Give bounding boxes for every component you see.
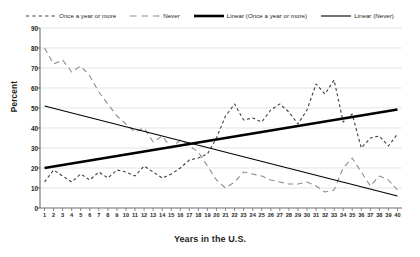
- x-tick-label: 36: [358, 212, 364, 218]
- x-tick-label: 27: [277, 212, 283, 218]
- x-tick-label: 7: [97, 212, 100, 218]
- x-tick-label: 10: [123, 212, 129, 218]
- x-tick-label: 3: [61, 212, 64, 218]
- chart-container: Once a year or more Never Linear (Once a…: [0, 0, 420, 257]
- x-tick-label: 35: [349, 212, 355, 218]
- x-tick-label: 18: [195, 212, 201, 218]
- x-tick-label: 30: [304, 212, 310, 218]
- x-tick-label: 33: [331, 212, 337, 218]
- x-tick-label: 23: [241, 212, 247, 218]
- x-tick-label: 32: [322, 212, 328, 218]
- x-tick-label: 2: [52, 212, 55, 218]
- x-tick-label: 1: [43, 212, 46, 218]
- x-tick-label: 24: [250, 212, 256, 218]
- x-tick-label: 6: [88, 212, 91, 218]
- x-tick-label: 14: [159, 212, 165, 218]
- x-tick-label: 40: [394, 212, 400, 218]
- x-tick-label: 26: [268, 212, 274, 218]
- x-tick-label: 19: [204, 212, 210, 218]
- x-tick-label: 16: [177, 212, 183, 218]
- x-axis-tick-labels: 1234567891011121314151617181920212223242…: [0, 0, 420, 257]
- x-tick-label: 21: [222, 212, 228, 218]
- x-tick-label: 28: [286, 212, 292, 218]
- x-tick-label: 17: [186, 212, 192, 218]
- x-tick-label: 38: [376, 212, 382, 218]
- x-tick-label: 13: [150, 212, 156, 218]
- x-tick-label: 20: [213, 212, 219, 218]
- x-tick-label: 34: [340, 212, 346, 218]
- x-tick-label: 11: [132, 212, 138, 218]
- x-tick-label: 31: [313, 212, 319, 218]
- x-tick-label: 25: [259, 212, 265, 218]
- x-tick-label: 39: [385, 212, 391, 218]
- x-tick-label: 15: [168, 212, 174, 218]
- x-tick-label: 29: [295, 212, 301, 218]
- x-tick-label: 8: [106, 212, 109, 218]
- x-tick-label: 37: [367, 212, 373, 218]
- x-tick-label: 22: [231, 212, 237, 218]
- x-tick-label: 4: [70, 212, 73, 218]
- x-tick-label: 12: [141, 212, 147, 218]
- x-tick-label: 9: [115, 212, 118, 218]
- x-tick-label: 5: [79, 212, 82, 218]
